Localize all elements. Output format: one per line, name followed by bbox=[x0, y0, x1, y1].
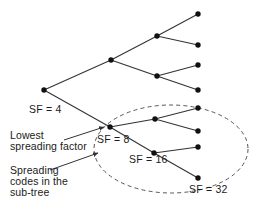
node-subtree-sf8 bbox=[107, 124, 112, 129]
tree-edges-upper bbox=[44, 14, 198, 90]
edge-s0-s1 bbox=[110, 119, 155, 127]
edge-u3-leaf4 bbox=[157, 76, 198, 90]
label-sf-4: SF = 4 bbox=[29, 104, 61, 115]
spreading-code-tree-figure: SF = 4 SF = 8 SF = 16 SF = 32 Lowest spr… bbox=[0, 0, 261, 216]
node-subtree-sf32-1 bbox=[195, 105, 200, 110]
edge-s1-leaf2 bbox=[155, 119, 198, 131]
node-subtree-sf32-4 bbox=[195, 175, 200, 180]
node-subtree-sf32-2 bbox=[195, 128, 200, 133]
subtree-ellipse bbox=[94, 105, 248, 193]
annotation-lowest-spreading-factor: Lowest spreading factor bbox=[10, 130, 87, 152]
label-sf-32: SF = 32 bbox=[189, 184, 227, 195]
edge-root-upper bbox=[44, 60, 111, 90]
label-sf-16: SF = 16 bbox=[129, 154, 167, 165]
node-subtree-sf32-3 bbox=[195, 144, 200, 149]
node-upper-sf32-3 bbox=[195, 62, 200, 67]
node-upper-sf16-a bbox=[154, 33, 159, 38]
tree-nodes bbox=[41, 11, 200, 180]
edge-s1-leaf1 bbox=[155, 108, 198, 119]
annotation-spreading-codes-subtree: Spreading codes in the sub-tree bbox=[10, 165, 68, 198]
node-subtree-sf16-a bbox=[152, 116, 157, 121]
node-upper-sf16-b bbox=[154, 73, 159, 78]
edge-u2-leaf1 bbox=[157, 14, 198, 36]
edge-u1-u3 bbox=[111, 60, 157, 76]
edge-u2-leaf2 bbox=[157, 36, 198, 45]
node-upper-sf32-2 bbox=[195, 42, 200, 47]
node-upper-sf32-1 bbox=[195, 11, 200, 16]
node-upper-sf8 bbox=[108, 57, 113, 62]
node-upper-sf32-4 bbox=[195, 87, 200, 92]
label-sf-8: SF = 8 bbox=[97, 134, 129, 145]
node-root-sf4 bbox=[41, 87, 46, 92]
edge-u3-leaf3 bbox=[157, 65, 198, 76]
edge-u1-u2 bbox=[111, 36, 157, 60]
